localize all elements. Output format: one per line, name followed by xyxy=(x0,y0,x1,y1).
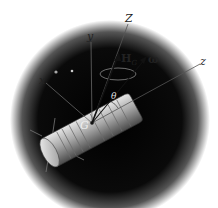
star xyxy=(71,70,74,73)
Z-axis-label: Z xyxy=(125,13,133,24)
diagram-stage: x y Z z HG ω θ G xyxy=(0,0,218,208)
angular-momentum-label: HG xyxy=(121,53,137,67)
center-of-mass-point xyxy=(90,121,94,125)
angular-velocity-label: ω xyxy=(148,54,158,65)
center-of-mass-label: G xyxy=(80,120,89,131)
theta-label: θ xyxy=(111,92,116,101)
satellite-diagram xyxy=(0,0,218,208)
x-axis-label: x xyxy=(39,75,45,86)
z-axis-label: z xyxy=(200,56,206,67)
star xyxy=(54,70,57,73)
y-axis-label: y xyxy=(87,31,93,42)
